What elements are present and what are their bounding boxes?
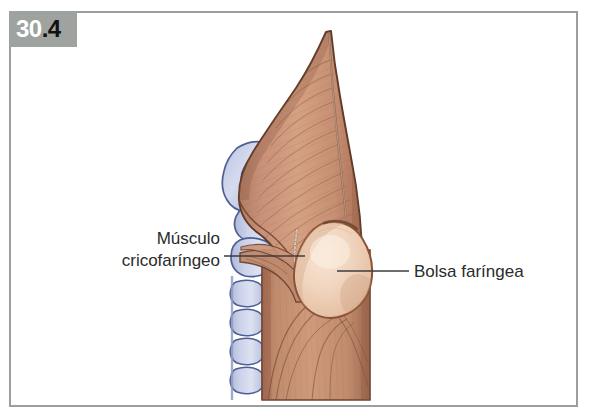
label-cricopharyngeus-line1: Músculo	[98, 228, 220, 250]
anatomical-illustration	[0, 0, 590, 420]
vertebra-stack-lower	[230, 280, 264, 393]
figure-number-badge: 30.4	[9, 11, 77, 47]
label-pharyngeal-pouch: Bolsa faríngea	[414, 261, 524, 283]
label-cricopharyngeus-line2: cricofaríngeo	[98, 250, 220, 272]
label-pharyngeal-pouch-line1: Bolsa faríngea	[414, 261, 524, 283]
figure-container: Músculo cricofaríngeo Bolsa faríngea 30.…	[0, 0, 590, 420]
label-cricopharyngeus: Músculo cricofaríngeo	[98, 228, 220, 272]
figure-number-major: 30	[16, 17, 42, 41]
figure-number-minor: .4	[42, 17, 61, 41]
